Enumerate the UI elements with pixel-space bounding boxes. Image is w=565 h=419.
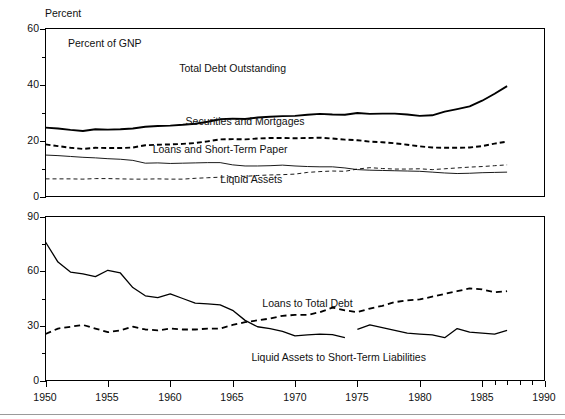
top-series-group [46,86,508,179]
two-panel-line-chart: Percent Percent of GNP 60 40 20 0 Total … [0,0,565,419]
bottom-ytick-30: 30 [27,319,39,331]
bottom-ytick-0: 0 [33,374,39,386]
y-axis-title-top: Percent [45,7,81,19]
top-tick-labels: 60 40 20 0 [27,22,39,202]
series-label-liquid-assets: Liquid Assets [220,173,282,185]
xtick-1960: 1960 [158,391,182,403]
series-line-liquid-assets-to-short-term-liabilities [357,325,507,338]
xtick-1965: 1965 [220,391,244,403]
top-ytick-0: 0 [33,190,39,202]
series-label-loans-and-short-term-paper: Loans and Short-Term Paper [153,143,288,155]
bottom-ytick-90: 90 [27,210,39,222]
top-series-labels: Total Debt Outstanding Securities and Mo… [153,62,305,185]
top-axis-ticks [40,30,46,198]
series-line-liquid-assets-to-short-term-liabilities [46,242,345,338]
series-label-liquid-assets-to-short-term-liabilities: Liquid Assets to Short-Term Liabilities [251,351,426,363]
x-axis-tick-labels: 1950 1955 1960 1965 1970 1975 1980 1985 … [33,391,556,403]
xtick-1970: 1970 [283,391,307,403]
bottom-panel: 90 60 30 0 Loans to Total Debt Liquid As… [27,210,556,403]
xtick-1990: 1990 [532,391,556,403]
top-ytick-40: 40 [27,78,39,90]
series-label-total-debt-outstanding: Total Debt Outstanding [179,62,286,74]
top-ytick-20: 20 [27,134,39,146]
xtick-1950: 1950 [33,391,57,403]
xtick-1980: 1980 [408,391,432,403]
top-plot-frame [46,29,545,197]
series-line-loans-to-total-debt [46,288,508,334]
top-panel: Percent Percent of GNP 60 40 20 0 Total … [27,7,544,202]
bottom-series-group [46,242,508,338]
xtick-1955: 1955 [95,391,119,403]
panel-note-percent-of-gnp: Percent of GNP [68,37,142,49]
bottom-ytick-60: 60 [27,264,39,276]
top-ytick-60: 60 [27,22,39,34]
figure-container: Percent Percent of GNP 60 40 20 0 Total … [0,0,565,419]
xtick-1985: 1985 [470,391,494,403]
series-label-securities-and-mortgages: Securities and Mortgages [186,115,305,127]
series-line-loans-and-short-term-paper [46,155,508,173]
xtick-1975: 1975 [345,391,369,403]
series-label-loans-to-total-debt: Loans to Total Debt [262,297,352,309]
bottom-y-tick-labels: 90 60 30 0 [27,210,39,386]
